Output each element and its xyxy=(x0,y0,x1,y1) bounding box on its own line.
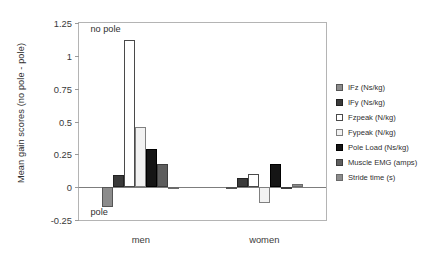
legend-swatch-icon xyxy=(336,84,343,91)
y-axis-tick-label: 1 xyxy=(67,50,72,61)
bar xyxy=(226,187,237,189)
y-axis-tick-label: 0.75 xyxy=(54,83,72,94)
bar xyxy=(124,40,135,187)
y-axis-tick xyxy=(75,154,79,155)
y-axis-tick-label: -0.25 xyxy=(51,215,72,226)
y-axis-tick xyxy=(75,220,79,221)
legend-item[interactable]: Fypeak (N/kg) xyxy=(336,125,436,140)
plot-canvas: no polepole xyxy=(79,23,326,220)
legend-item[interactable]: Muscle EMG (amps) xyxy=(336,155,436,170)
x-axis-category-label: women xyxy=(249,234,279,245)
y-axis-tick xyxy=(75,122,79,123)
bar xyxy=(259,187,270,203)
bar xyxy=(248,174,259,187)
bar xyxy=(237,178,248,187)
y-axis-tick-label: 0.5 xyxy=(59,116,72,127)
bar xyxy=(113,175,124,187)
legend-item-label: IFy (Ns/kg) xyxy=(348,99,385,107)
bar xyxy=(270,164,281,188)
bar xyxy=(281,187,292,189)
y-axis-tick xyxy=(75,56,79,57)
y-axis-tick xyxy=(75,89,79,90)
legend-item[interactable]: Stride time (s) xyxy=(336,170,436,185)
y-axis-tick-label: 0.25 xyxy=(54,149,72,160)
y-axis-tick-label: 1.25 xyxy=(54,18,72,29)
chart-legend: IFz (Ns/kg)IFy (Ns/kg)Fzpeak (N/kg)Fypea… xyxy=(336,80,436,185)
bar xyxy=(292,184,303,187)
legend-item-label: Fypeak (N/kg) xyxy=(348,129,396,137)
bar xyxy=(135,127,146,187)
legend-item[interactable]: Fzpeak (N/kg) xyxy=(336,110,436,125)
y-axis-tick xyxy=(75,23,79,24)
bar xyxy=(102,187,113,207)
legend-swatch-icon xyxy=(336,129,343,136)
plot-area: no polepole -0.2500.250.50.7511.25menwom… xyxy=(78,22,327,221)
legend-swatch-icon xyxy=(336,99,343,106)
legend-item[interactable]: Pole Load (Ns/kg) xyxy=(336,140,436,155)
legend-item-label: Muscle EMG (amps) xyxy=(348,159,417,167)
y-axis-tick-label: 0 xyxy=(67,182,72,193)
annotation-no-pole: no pole xyxy=(90,24,120,34)
bar-chart-figure: Mean gain scores (no pole - pole) no pol… xyxy=(0,0,439,258)
bar xyxy=(146,149,157,187)
annotation-pole: pole xyxy=(90,207,107,217)
y-axis-title: Mean gain scores (no pole - pole) xyxy=(16,18,26,208)
y-axis-tick xyxy=(75,187,79,188)
legend-item-label: Stride time (s) xyxy=(348,174,395,182)
legend-swatch-icon xyxy=(336,159,343,166)
legend-swatch-icon xyxy=(336,174,343,181)
legend-swatch-icon xyxy=(336,144,343,151)
legend-item[interactable]: IFy (Ns/kg) xyxy=(336,95,436,110)
x-axis-category-label: men xyxy=(132,234,150,245)
legend-swatch-icon xyxy=(336,114,343,121)
legend-item-label: IFz (Ns/kg) xyxy=(348,84,385,92)
legend-item-label: Fzpeak (N/kg) xyxy=(348,114,396,122)
legend-item[interactable]: IFz (Ns/kg) xyxy=(336,80,436,95)
legend-item-label: Pole Load (Ns/kg) xyxy=(348,144,409,152)
bar xyxy=(168,187,179,189)
bar xyxy=(157,164,168,188)
